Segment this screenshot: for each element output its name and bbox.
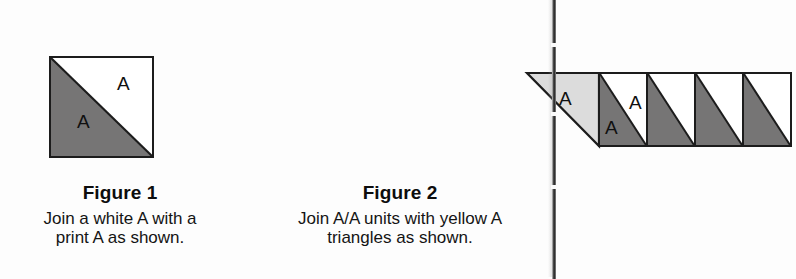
label-yellow-a: A [559, 89, 572, 108]
figure-2-block: A A A Figure 2 Join A/A units with yello… [255, 0, 553, 277]
figure-2-caption: Figure 2 Join A/A units with yellow A tr… [255, 182, 545, 247]
figure-1-caption-line-1: Join a white A with a [0, 209, 240, 228]
label-white-a: A [117, 74, 130, 93]
diagonal-seam-line [51, 58, 152, 156]
yellow-triangle-outline [526, 72, 600, 147]
label-white-a: A [629, 93, 642, 112]
figure-2-caption-line-2: triangles as shown. [255, 228, 545, 247]
scan-edge-line [552, 0, 556, 279]
scan-edge-notch [551, 185, 557, 189]
figure-1-caption: Figure 1 Join a white A with a print A a… [0, 182, 240, 247]
aa-unit [742, 72, 792, 147]
yellow-a-triangle [526, 72, 600, 147]
figure-1-caption-line-2: print A as shown. [0, 228, 240, 247]
diagonal-seam-line [648, 74, 694, 145]
figure-2-caption-line-1: Join A/A units with yellow A [255, 209, 545, 228]
aa-unit-row [598, 72, 796, 147]
figure-1-title: Figure 1 [0, 182, 240, 204]
figure-2-title: Figure 2 [255, 182, 545, 204]
aa-unit [694, 72, 744, 147]
scan-edge-notch [551, 43, 557, 47]
figure-2-diagram: A A A [526, 72, 796, 147]
aa-unit-square [49, 56, 154, 158]
diagonal-seam-line [696, 74, 742, 145]
figure-1-block: A A Figure 1 Join a white A with a print… [0, 0, 255, 277]
label-print-a: A [77, 112, 90, 131]
figure-1-diagram: A A [49, 56, 154, 158]
label-print-a: A [605, 118, 618, 137]
scan-edge-notch [551, 112, 557, 116]
aa-unit [646, 72, 696, 147]
diagonal-seam-line [744, 74, 790, 145]
